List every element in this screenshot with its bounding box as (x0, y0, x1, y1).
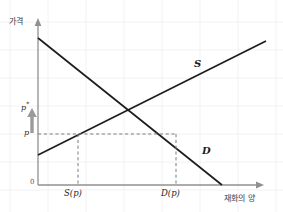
demand-quantity-tick-label: D(p) (161, 189, 180, 198)
origin-label: 0 (30, 179, 34, 186)
demand-curve-label: D (202, 146, 211, 156)
supply-curve (38, 41, 266, 155)
y-axis-title: 가격 (9, 18, 23, 26)
y-axis (35, 18, 42, 185)
grid-lines (0, 0, 283, 212)
supply-demand-chart: 가격 재화의 양 S D p* p 0 S(p) D(p) (0, 0, 283, 212)
supply-curve-label: S (194, 59, 201, 69)
equilibrium-price-label: p* (21, 101, 29, 112)
equilibrium-price-star: * (26, 100, 29, 107)
x-axis-title: 재화의 양 (224, 195, 255, 203)
supply-quantity-tick-label: S(p) (64, 189, 82, 198)
current-price-label: p (24, 129, 29, 137)
chart-canvas (0, 0, 283, 212)
